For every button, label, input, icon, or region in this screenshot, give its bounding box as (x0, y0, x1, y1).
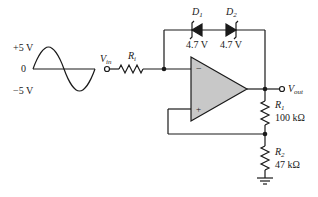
label-vin: Vin (100, 53, 112, 66)
vout-terminal (280, 87, 285, 92)
label-r1: R1 (274, 99, 285, 112)
label-r1-value: 100 kΩ (275, 112, 305, 123)
junction-dot (263, 87, 268, 92)
junction-dot (162, 67, 167, 72)
label-d1: D1 (191, 6, 203, 19)
opamp-inverting-sign: − (196, 63, 202, 74)
r1-resistor (261, 101, 269, 125)
label-ri: Ri (127, 50, 136, 63)
vin-terminal (105, 67, 110, 72)
zener-diode-d2 (226, 21, 238, 39)
label-d2: D2 (225, 6, 237, 19)
junction-dot (263, 132, 268, 137)
label-vout: Vout (288, 83, 304, 96)
label-zero: 0 (21, 63, 26, 74)
ri-resistor (119, 65, 143, 73)
label-pos5v: +5 V (13, 42, 34, 53)
circuit-diagram: +5 V 0 −5 V Vin Ri D1 D2 4.7 V 4.7 V − +… (0, 0, 318, 197)
label-d1-rating: 4.7 V (186, 39, 209, 50)
label-r2-value: 47 kΩ (275, 159, 300, 170)
r2-resistor (261, 146, 269, 170)
ground-icon (257, 178, 273, 184)
label-d2-rating: 4.7 V (220, 39, 243, 50)
label-neg5v: −5 V (13, 85, 34, 96)
label-r2: R2 (274, 146, 285, 159)
zener-diode-d1 (190, 21, 202, 39)
opamp-noninverting-sign: + (196, 104, 201, 114)
